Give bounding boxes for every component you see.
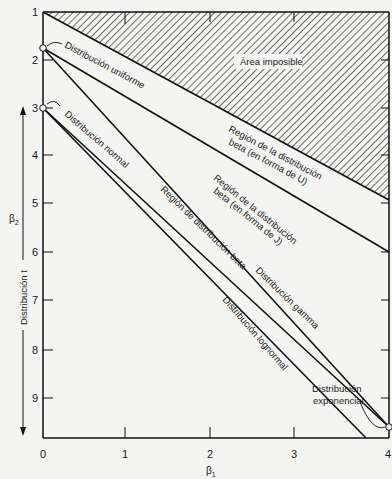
svg-text:3: 3 bbox=[291, 448, 297, 460]
impossible-area-label: Área imposible bbox=[240, 56, 303, 67]
svg-text:2: 2 bbox=[207, 448, 213, 460]
svg-text:1: 1 bbox=[122, 448, 128, 460]
arrow-down-icon bbox=[20, 427, 26, 436]
y-tick-labels: 1 2 3 4 5 6 7 8 9 bbox=[32, 6, 38, 404]
svg-text:4: 4 bbox=[385, 448, 391, 460]
exponential-label-2: exponencial bbox=[313, 395, 364, 406]
svg-text:7: 7 bbox=[32, 294, 38, 306]
exponential-point bbox=[386, 424, 392, 431]
svg-text:3: 3 bbox=[32, 102, 38, 114]
svg-text:2: 2 bbox=[32, 54, 38, 66]
svg-text:9: 9 bbox=[32, 392, 38, 404]
exponential-pointer bbox=[360, 402, 385, 428]
normal-point bbox=[40, 105, 47, 112]
t-dist-label: Distribución t bbox=[18, 270, 29, 325]
x-axis-label: β1 bbox=[206, 465, 216, 478]
uniform-point bbox=[40, 45, 47, 52]
beta-j-label-1: Región de la distribución bbox=[212, 172, 300, 246]
lognormal-label: Distribución lognormal bbox=[220, 294, 290, 372]
svg-text:4: 4 bbox=[32, 149, 38, 161]
x-tick-labels: 0 1 2 3 4 bbox=[40, 448, 391, 460]
exponential-label-1: Distribución bbox=[312, 383, 362, 394]
svg-text:0: 0 bbox=[40, 448, 46, 460]
x-ticks bbox=[125, 427, 294, 438]
normal-pointer bbox=[47, 101, 60, 106]
beta1-beta2-chart: Área imposible 1 2 bbox=[0, 0, 392, 479]
svg-text:6: 6 bbox=[32, 246, 38, 258]
arrow-up-icon bbox=[20, 106, 26, 115]
y-axis-label: β2 bbox=[9, 213, 19, 226]
svg-text:1: 1 bbox=[32, 6, 38, 18]
gamma-label: Distribución gamma bbox=[254, 265, 323, 332]
svg-text:8: 8 bbox=[32, 344, 38, 356]
svg-text:5: 5 bbox=[32, 197, 38, 209]
uniform-pointer bbox=[47, 42, 62, 46]
